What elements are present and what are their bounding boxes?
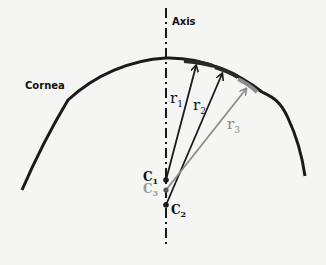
cornea-diagram: Axis Cornea r1 r2 r3 C1 C3 C2	[0, 0, 326, 265]
r2-label: r2	[193, 96, 206, 116]
cornea-label: Cornea	[25, 80, 65, 91]
r1-label: r1	[170, 89, 183, 109]
axis-label: Axis	[172, 16, 196, 27]
arc-segment-r1	[184, 61, 213, 66]
arc-segment-r2	[215, 67, 238, 77]
diagram-canvas: Axis Cornea r1 r2 r3 C1 C3 C2	[0, 0, 326, 265]
c2-label: C2	[171, 203, 186, 219]
center-point-c3	[163, 187, 168, 192]
cornea-curve	[22, 58, 305, 190]
r3-label: r3	[227, 115, 240, 135]
center-point-c2	[163, 202, 169, 208]
center-point-c1	[163, 177, 169, 183]
radius-arrow-r1	[166, 66, 196, 180]
